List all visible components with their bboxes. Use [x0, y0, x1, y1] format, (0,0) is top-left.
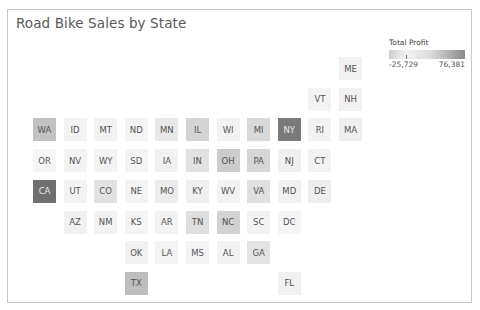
state-tile-nh[interactable]: NH: [339, 88, 362, 111]
state-tile-az[interactable]: AZ: [64, 211, 87, 234]
state-tile-mt[interactable]: MT: [94, 118, 117, 141]
state-tile-wa[interactable]: WA: [33, 118, 56, 141]
state-tile-la[interactable]: LA: [155, 241, 178, 264]
color-legend: Total Profit -25,729 76,381: [389, 38, 465, 69]
state-tile-wv[interactable]: WV: [217, 180, 240, 203]
chart-title: Road Bike Sales by State: [16, 15, 186, 31]
state-tile-in[interactable]: IN: [186, 149, 209, 172]
legend-min-label: -25,729: [389, 60, 418, 69]
state-tile-vt[interactable]: VT: [308, 88, 331, 111]
state-tile-mi[interactable]: MI: [247, 118, 270, 141]
state-tile-ky[interactable]: KY: [186, 180, 209, 203]
state-tile-de[interactable]: DE: [308, 180, 331, 203]
state-tile-ma[interactable]: MA: [339, 118, 362, 141]
state-tile-ga[interactable]: GA: [247, 241, 270, 264]
state-tile-sc[interactable]: SC: [247, 211, 270, 234]
state-tile-il[interactable]: IL: [186, 118, 209, 141]
state-tile-ne[interactable]: NE: [125, 180, 148, 203]
state-tile-mo[interactable]: MO: [155, 180, 178, 203]
state-tile-co[interactable]: CO: [94, 180, 117, 203]
legend-gradient-bar: [389, 50, 465, 59]
state-tile-tx[interactable]: TX: [125, 272, 148, 295]
state-tile-nd[interactable]: ND: [125, 118, 148, 141]
state-tile-dc[interactable]: DC: [278, 211, 301, 234]
legend-max-label: 76,381: [439, 60, 465, 69]
state-tile-nm[interactable]: NM: [94, 211, 117, 234]
state-tile-or[interactable]: OR: [33, 149, 56, 172]
state-tile-ok[interactable]: OK: [125, 241, 148, 264]
state-tile-nc[interactable]: NC: [217, 211, 240, 234]
state-tile-wy[interactable]: WY: [94, 149, 117, 172]
state-tile-ut[interactable]: UT: [64, 180, 87, 203]
state-tile-nv[interactable]: NV: [64, 149, 87, 172]
state-tile-ia[interactable]: IA: [155, 149, 178, 172]
state-tile-nj[interactable]: NJ: [278, 149, 301, 172]
state-tile-fl[interactable]: FL: [278, 272, 301, 295]
state-tile-mn[interactable]: MN: [155, 118, 178, 141]
state-tile-tn[interactable]: TN: [186, 211, 209, 234]
state-tile-sd[interactable]: SD: [125, 149, 148, 172]
state-tile-ri[interactable]: RI: [308, 118, 331, 141]
state-tile-ms[interactable]: MS: [186, 241, 209, 264]
state-tile-oh[interactable]: OH: [217, 149, 240, 172]
state-tile-ct[interactable]: CT: [308, 149, 331, 172]
state-tile-ks[interactable]: KS: [125, 211, 148, 234]
state-tile-ny[interactable]: NY: [278, 118, 301, 141]
legend-title: Total Profit: [389, 38, 465, 47]
state-tile-id[interactable]: ID: [64, 118, 87, 141]
legend-zero-tick: [406, 55, 407, 59]
state-tile-al[interactable]: AL: [217, 241, 240, 264]
state-tile-ar[interactable]: AR: [155, 211, 178, 234]
state-tile-pa[interactable]: PA: [247, 149, 270, 172]
state-tile-me[interactable]: ME: [339, 57, 362, 80]
state-tile-ca[interactable]: CA: [33, 180, 56, 203]
state-tile-md[interactable]: MD: [278, 180, 301, 203]
state-tile-wi[interactable]: WI: [217, 118, 240, 141]
state-tile-va[interactable]: VA: [247, 180, 270, 203]
